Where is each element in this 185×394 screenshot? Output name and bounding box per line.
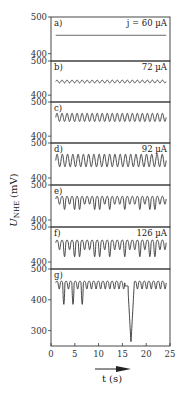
voltage-trace [56,196,166,209]
x-tick-label: 10 [93,349,104,359]
panel-label: e) [54,186,62,196]
panels: 500400a)j = 60 µA500400b)72 µA500400c)50… [31,12,170,346]
voltage-trace [56,80,166,83]
y-tick-label: 500 [31,264,47,274]
x-axis: 0510152025 [48,343,175,359]
voltage-trace [56,281,166,342]
panel-label: b) [54,62,63,72]
panel-a: 500400a)j = 60 µA [31,12,170,61]
y-tick-label: 500 [31,138,47,148]
x-tick-label: 0 [48,349,53,359]
stacked-oscillation-chart: 500400a)j = 60 µA500400b)72 µA500400c)50… [0,0,185,394]
y-tick-label: 500 [31,56,47,66]
voltage-trace [56,113,166,121]
x-tick-label: 15 [117,349,128,359]
y-tick-label: 300 [31,326,47,336]
current-label: 72 µA [142,62,168,72]
y-tick-label: 500 [31,12,47,22]
panel-label: a) [54,18,62,28]
voltage-trace [56,154,166,167]
panel-c: 500400c) [31,97,170,143]
panel-label: f) [54,228,60,238]
panel-f: 500400f)126 µA [31,222,170,269]
x-axis-label: t (s) [102,373,122,384]
panel-e: 500400e) [31,180,170,227]
x-tick-label: 20 [141,349,152,359]
panel-label: c) [54,103,62,113]
voltage-trace [56,240,166,257]
time-arrow-icon [95,366,131,372]
x-tick-label: 25 [165,349,176,359]
panel-d: 500400d)92 µA [31,138,170,185]
panel-b: 500400b)72 µA [31,56,170,102]
panel-label: d) [54,144,63,154]
x-tick-label: 5 [72,349,77,359]
panel-g: 500400300g) [31,264,170,346]
current-label: 92 µA [142,144,168,154]
y-tick-label: 500 [31,97,47,107]
y-axis-label: UNHE(mV) [8,173,21,226]
panel-label: g) [54,270,63,280]
y-tick-label: 500 [31,222,47,232]
y-tick-label: 500 [31,180,47,190]
current-label: j = 60 µA [126,18,168,28]
current-label: 126 µA [136,228,167,238]
y-tick-label: 400 [31,295,47,305]
